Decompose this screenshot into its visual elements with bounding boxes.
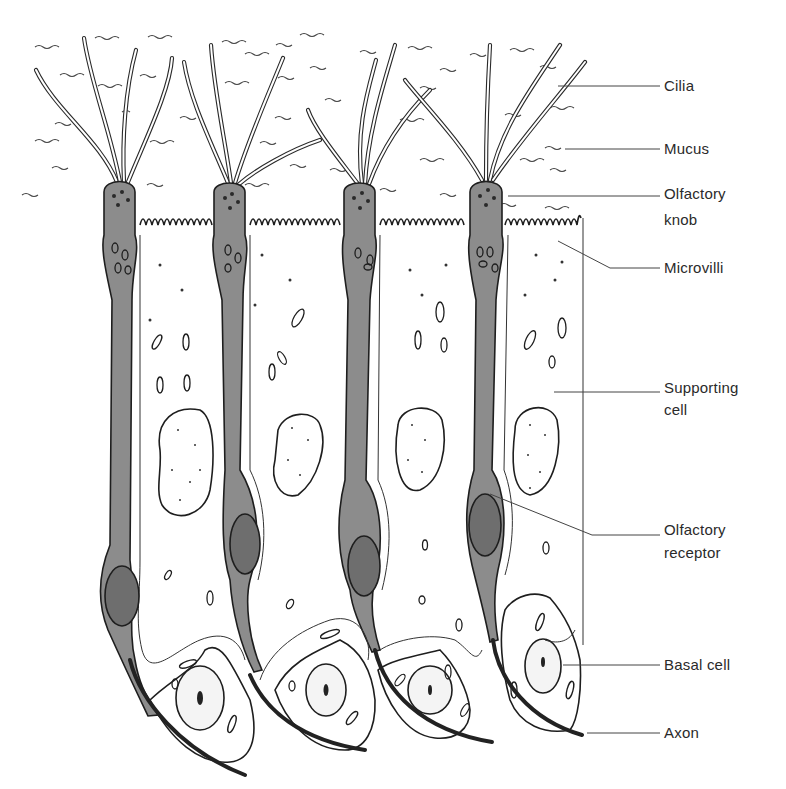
olfactory-receptors [101, 182, 513, 717]
label-cilia: Cilia [664, 76, 694, 96]
label-olfactory-knob-line1: Olfactory [664, 184, 726, 204]
label-supporting-cell-line2: cell [664, 400, 687, 420]
label-olfactory-receptor-line1: Olfactory [664, 520, 726, 540]
cilia [36, 38, 585, 185]
label-basal-cell: Basal cell [664, 655, 730, 675]
label-mucus: Mucus [664, 139, 709, 159]
label-olfactory-knob-line2: knob [664, 210, 697, 230]
label-supporting-cell-line1: Supporting [664, 378, 739, 398]
label-olfactory-receptor-line2: receptor [664, 543, 721, 563]
label-microvilli: Microvilli [664, 258, 724, 278]
label-axon: Axon [664, 723, 699, 743]
